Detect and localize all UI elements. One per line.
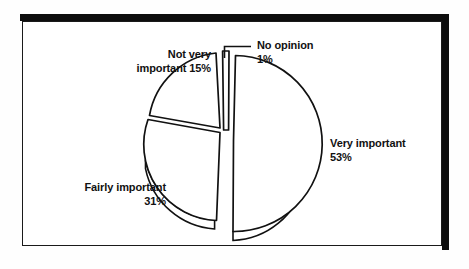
pie-slice-no-opinion (223, 51, 229, 130)
slice-label-fairly-important: Fairly important31% (20, 181, 166, 208)
slice-label-very-important: Very important53% (330, 137, 406, 164)
slice-label-no-opinion-line2: 1% (257, 53, 273, 65)
slice-label-not-very-important: Not veryimportant 15% (74, 48, 211, 75)
chart-plot-area: Very important53% Fairly important31% No… (0, 0, 469, 269)
slice-label-very-important-line1: Very important (330, 137, 406, 149)
pie-chart-figure: Very important53% Fairly important31% No… (0, 0, 469, 269)
slice-label-fairly-important-line1: Fairly important (84, 181, 166, 193)
slice-label-fairly-important-line2: 31% (144, 195, 166, 207)
pie-slice-very-important (233, 56, 322, 232)
slice-label-not-very-important-line1: Not very (168, 48, 211, 60)
slice-label-very-important-line2: 53% (330, 151, 352, 163)
slice-label-no-opinion-line1: No opinion (257, 39, 313, 51)
slice-label-no-opinion: No opinion1% (257, 39, 313, 66)
slice-label-not-very-important-line2: important 15% (137, 62, 212, 74)
